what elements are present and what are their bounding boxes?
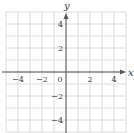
axes <box>2 13 126 133</box>
x-tick-label: 0 <box>57 75 62 84</box>
y-tick-label: 2 <box>58 44 63 53</box>
x-tick-labels: −4−2024 <box>12 75 116 84</box>
x-tick-label: −4 <box>12 75 24 84</box>
x-tick-label: 4 <box>111 75 116 84</box>
y-tick-label: −4 <box>51 116 63 125</box>
coordinate-plane: x y −4−2024 42−2−4 <box>0 0 134 133</box>
x-tick-label: −2 <box>36 75 48 84</box>
x-axis-arrow-icon <box>120 70 126 75</box>
x-axis-label: x <box>128 67 134 78</box>
y-axis-label: y <box>63 0 70 11</box>
x-tick-label: 2 <box>87 75 92 84</box>
y-tick-label: −2 <box>51 92 63 101</box>
y-axis-arrow-icon <box>64 13 69 19</box>
y-tick-label: 4 <box>58 20 63 29</box>
